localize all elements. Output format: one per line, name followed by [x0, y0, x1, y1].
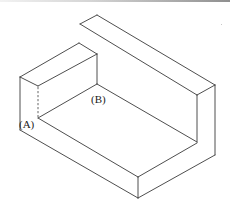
scan-speck	[221, 24, 222, 25]
isometric-solid-drawing	[0, 0, 230, 207]
label-a: (A)	[19, 119, 34, 130]
base	[20, 77, 215, 198]
label-b: (B)	[91, 94, 106, 105]
floor	[38, 84, 197, 177]
back-wall	[80, 15, 215, 155]
